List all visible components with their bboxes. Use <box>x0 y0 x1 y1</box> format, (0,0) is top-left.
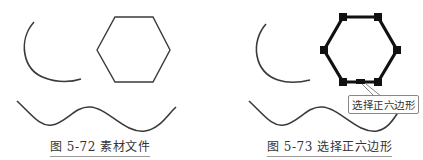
arc-shape <box>24 22 81 82</box>
arc-shape <box>256 24 310 82</box>
figure-5-73: 选择正六边形 图 5-73 选择正六边形 <box>212 0 423 160</box>
selection-handles[interactable] <box>320 13 401 86</box>
figure-caption: 图 5-73 选择正六边形 <box>267 137 392 157</box>
wave-curve-shape <box>17 101 176 131</box>
callout-label: 选择正六边形 <box>348 95 419 114</box>
figure-5-72: 图 5-72 素材文件 <box>0 0 212 160</box>
hexagon-shape <box>97 17 170 82</box>
figure-5-72-drawing <box>0 0 212 160</box>
figure-caption: 图 5-72 素材文件 <box>50 137 150 157</box>
figure-5-73-drawing <box>212 0 423 160</box>
hexagon-selected-shape[interactable] <box>320 13 401 86</box>
